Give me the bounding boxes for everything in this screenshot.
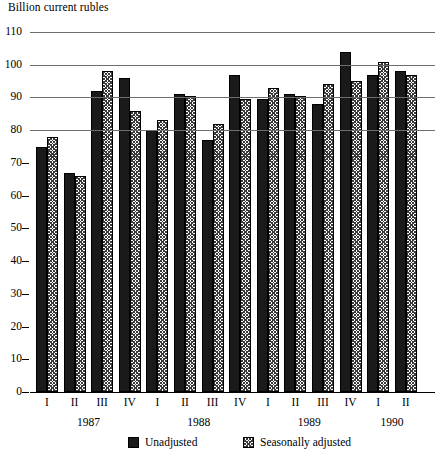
- y-tick-label-90: 90: [0, 91, 22, 103]
- bar-seasonally-adjusted-4: [157, 120, 168, 392]
- legend-item-unadjusted: Unadjusted: [128, 436, 197, 448]
- plot-area: [30, 32, 435, 392]
- y-tick-label-60: 60: [0, 190, 22, 202]
- x-quarter-label-13: II: [393, 396, 419, 408]
- x-quarter-label-8: I: [255, 396, 281, 408]
- y-tick-label-40: 40: [0, 255, 22, 267]
- x-quarter-label-11: IV: [338, 396, 364, 408]
- bar-unadjusted-7: [229, 75, 240, 393]
- bar-unadjusted-4: [146, 130, 157, 392]
- x-year-label-1989: 1989: [286, 416, 332, 428]
- y-tick-mark-0: [22, 392, 29, 393]
- gridline-110: [30, 32, 435, 33]
- y-axis-tick-labels: 0102030405060708090100110: [0, 32, 22, 392]
- x-quarter-label-7: IV: [227, 396, 253, 408]
- y-axis-title: Billion current rubles: [8, 1, 109, 13]
- bar-seasonally-adjusted-13: [406, 75, 417, 393]
- bar-seasonally-adjusted-6: [213, 124, 224, 392]
- x-quarter-label-9: II: [282, 396, 308, 408]
- legend-swatch-seasonally-adjusted-icon: [243, 437, 254, 448]
- bar-unadjusted-6: [202, 140, 213, 392]
- bar-seasonally-adjusted-7: [240, 99, 251, 392]
- x-quarter-label-5: II: [172, 396, 198, 408]
- legend-item-seasonally-adjusted: Seasonally adjusted: [243, 436, 351, 448]
- x-quarter-label-10: III: [310, 396, 336, 408]
- bar-seasonally-adjusted-2: [102, 71, 113, 392]
- y-tick-mark-50: [22, 228, 29, 229]
- chart-legend: Unadjusted Seasonally adjusted: [0, 436, 440, 456]
- y-tick-label-30: 30: [0, 288, 22, 300]
- bar-seasonally-adjusted-0: [47, 137, 58, 392]
- x-year-label-1990: 1990: [369, 416, 415, 428]
- bar-unadjusted-12: [367, 75, 378, 393]
- x-quarter-label-12: I: [365, 396, 391, 408]
- bar-seasonally-adjusted-3: [130, 111, 141, 393]
- y-tick-label-20: 20: [0, 321, 22, 333]
- legend-label-seasonally-adjusted: Seasonally adjusted: [260, 436, 351, 448]
- x-quarter-label-3: IV: [117, 396, 143, 408]
- bar-unadjusted-5: [174, 94, 185, 392]
- x-year-label-1988: 1988: [176, 416, 222, 428]
- bars-layer: [30, 32, 435, 392]
- y-tick-mark-30: [22, 294, 29, 295]
- bar-unadjusted-0: [36, 147, 47, 393]
- bar-seasonally-adjusted-12: [378, 62, 389, 393]
- x-quarter-label-6: III: [200, 396, 226, 408]
- gridline-80: [30, 130, 435, 131]
- bar-unadjusted-13: [395, 71, 406, 392]
- x-quarter-label-1: II: [62, 396, 88, 408]
- x-quarter-label-2: III: [89, 396, 115, 408]
- bar-unadjusted-1: [64, 173, 75, 392]
- x-year-label-1987: 1987: [65, 416, 111, 428]
- bar-seasonally-adjusted-5: [185, 96, 196, 392]
- y-tick-label-70: 70: [0, 157, 22, 169]
- x-quarter-label-4: I: [144, 396, 170, 408]
- y-tick-label-0: 0: [0, 386, 22, 398]
- y-tick-label-100: 100: [0, 59, 22, 71]
- bar-seasonally-adjusted-1: [75, 176, 86, 392]
- bar-unadjusted-9: [284, 94, 295, 392]
- bar-chart: Billion current rubles 01020304050607080…: [0, 0, 440, 460]
- bar-unadjusted-11: [340, 52, 351, 392]
- bar-unadjusted-3: [119, 78, 130, 392]
- legend-label-unadjusted: Unadjusted: [145, 436, 197, 448]
- bar-seasonally-adjusted-8: [268, 88, 279, 392]
- y-tick-label-10: 10: [0, 353, 22, 365]
- y-tick-mark-40: [22, 261, 29, 262]
- y-tick-mark-70: [22, 163, 29, 164]
- bar-seasonally-adjusted-9: [295, 96, 306, 392]
- y-tick-mark-10: [22, 359, 29, 360]
- bar-unadjusted-2: [91, 91, 102, 392]
- bar-unadjusted-8: [257, 99, 268, 392]
- x-axis: IIIIIIIVIIIIIIIVIIIIIIIVIII1987198819891…: [30, 392, 435, 438]
- bar-seasonally-adjusted-11: [351, 81, 362, 392]
- y-tick-label-110: 110: [0, 26, 22, 38]
- y-tick-label-80: 80: [0, 124, 22, 136]
- legend-swatch-unadjusted-icon: [128, 437, 139, 448]
- bar-unadjusted-10: [312, 104, 323, 392]
- gridline-90: [30, 97, 435, 98]
- y-tick-label-50: 50: [0, 222, 22, 234]
- y-tick-mark-60: [22, 196, 29, 197]
- y-tick-mark-20: [22, 327, 29, 328]
- x-quarter-label-0: I: [34, 396, 60, 408]
- gridline-100: [30, 65, 435, 66]
